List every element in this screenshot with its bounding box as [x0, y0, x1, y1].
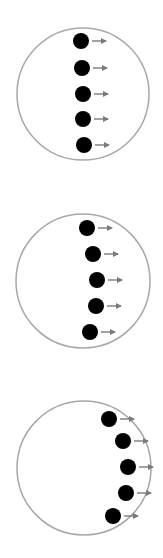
- particle-dot: [75, 111, 91, 127]
- diagram-canvas: [0, 0, 163, 558]
- particle-dot: [115, 433, 131, 449]
- panel-3: [17, 401, 153, 535]
- particle-dot: [73, 33, 89, 49]
- particle-dot: [74, 60, 90, 76]
- panel-1: [17, 28, 149, 160]
- particle-dot: [76, 137, 92, 153]
- particle-dot: [79, 220, 95, 236]
- particle-dot: [75, 86, 91, 102]
- particle-dot: [89, 272, 105, 288]
- particle-dot: [120, 459, 136, 475]
- particle-dot: [105, 508, 121, 524]
- particle-dot: [118, 485, 134, 501]
- particle-dot: [82, 324, 98, 340]
- particle-dot: [85, 246, 101, 262]
- particle-dot: [101, 411, 117, 427]
- panel-2: [16, 214, 150, 348]
- particle-dot: [88, 298, 104, 314]
